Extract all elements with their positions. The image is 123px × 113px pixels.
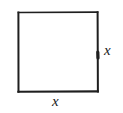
geometry-figure: x x xyxy=(0,0,123,113)
side-label-right: x xyxy=(104,43,111,58)
square-outline xyxy=(18,12,98,92)
side-label-bottom: x xyxy=(52,94,59,109)
